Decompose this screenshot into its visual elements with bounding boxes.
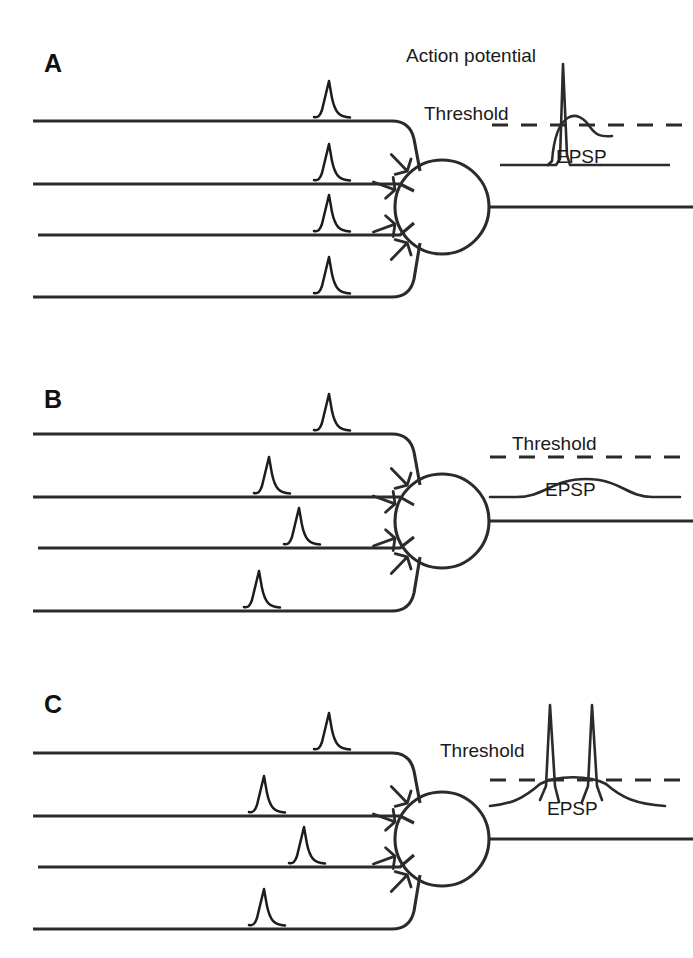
panel-c-trace: Threshold EPSP <box>440 705 690 819</box>
panel-c: C <box>33 690 693 929</box>
panel-b-axons <box>33 434 420 611</box>
panel-b-terminals <box>373 468 411 573</box>
action-potential-waveform <box>540 705 559 802</box>
panel-b-trace: Threshold EPSP <box>490 433 690 500</box>
synaptic-terminal <box>391 786 411 806</box>
synaptic-terminal <box>373 177 395 198</box>
presynaptic-axon <box>33 243 420 297</box>
panel-a: A <box>33 45 693 297</box>
panel-a-trace: Action potential Threshold EPSP <box>406 45 690 167</box>
soma-cell-body <box>395 160 489 254</box>
figure-canvas: A <box>0 0 693 958</box>
synaptic-terminal <box>391 154 411 174</box>
synaptic-summation-figure: A <box>0 0 693 958</box>
action-potential-spike <box>314 195 350 232</box>
epsp-label: EPSP <box>545 479 596 500</box>
synaptic-terminal <box>391 240 411 260</box>
action-potential-spike <box>314 81 350 118</box>
action-potential-spike <box>314 257 350 294</box>
threshold-label: Threshold <box>424 103 509 124</box>
synaptic-terminal <box>391 468 411 488</box>
soma-cell-body <box>395 792 489 886</box>
panel-letter-b: B <box>44 385 62 413</box>
presynaptic-axon <box>33 816 414 823</box>
action-potential-label: Action potential <box>406 45 536 66</box>
panel-a-input-spikes <box>314 81 350 294</box>
presynaptic-axon <box>33 121 420 171</box>
panel-c-terminals <box>373 786 411 891</box>
presynaptic-axon <box>33 875 420 929</box>
panel-letter-c: C <box>44 690 62 718</box>
action-potential-spike <box>244 571 280 608</box>
presynaptic-axon <box>33 184 414 191</box>
presynaptic-axon <box>33 434 420 485</box>
epsp-label: EPSP <box>547 798 598 819</box>
action-potential-spike <box>314 713 350 750</box>
soma-cell-body <box>395 474 489 568</box>
panel-letter-a: A <box>44 49 62 77</box>
action-potential-waveform <box>582 705 602 802</box>
panel-a-axons <box>33 121 420 297</box>
action-potential-spike <box>254 457 290 494</box>
presynaptic-axon <box>33 497 414 505</box>
action-potential-spike <box>314 144 350 181</box>
synaptic-terminal <box>373 491 395 512</box>
presynaptic-axon <box>38 223 414 235</box>
action-potential-spike <box>249 776 285 813</box>
threshold-label: Threshold <box>440 740 525 761</box>
action-potential-spike <box>314 394 350 431</box>
panel-c-input-spikes <box>249 713 350 926</box>
epsp-label: EPSP <box>556 146 607 167</box>
action-potential-spike <box>289 827 325 864</box>
presynaptic-axon <box>33 753 420 803</box>
synaptic-terminal <box>373 848 395 869</box>
action-potential-spike <box>284 508 320 545</box>
presynaptic-axon <box>38 855 414 867</box>
panel-b: B <box>33 385 693 611</box>
panel-c-axons <box>33 753 420 929</box>
panel-b-input-spikes <box>244 394 350 608</box>
synaptic-terminal <box>373 216 395 237</box>
panel-a-terminals <box>373 154 411 259</box>
presynaptic-axon <box>38 537 414 548</box>
presynaptic-axon <box>33 557 420 611</box>
action-potential-spike <box>249 889 285 926</box>
threshold-label: Threshold <box>512 433 597 454</box>
synaptic-terminal <box>391 554 411 574</box>
synaptic-terminal <box>391 872 411 892</box>
synaptic-terminal <box>373 809 395 830</box>
